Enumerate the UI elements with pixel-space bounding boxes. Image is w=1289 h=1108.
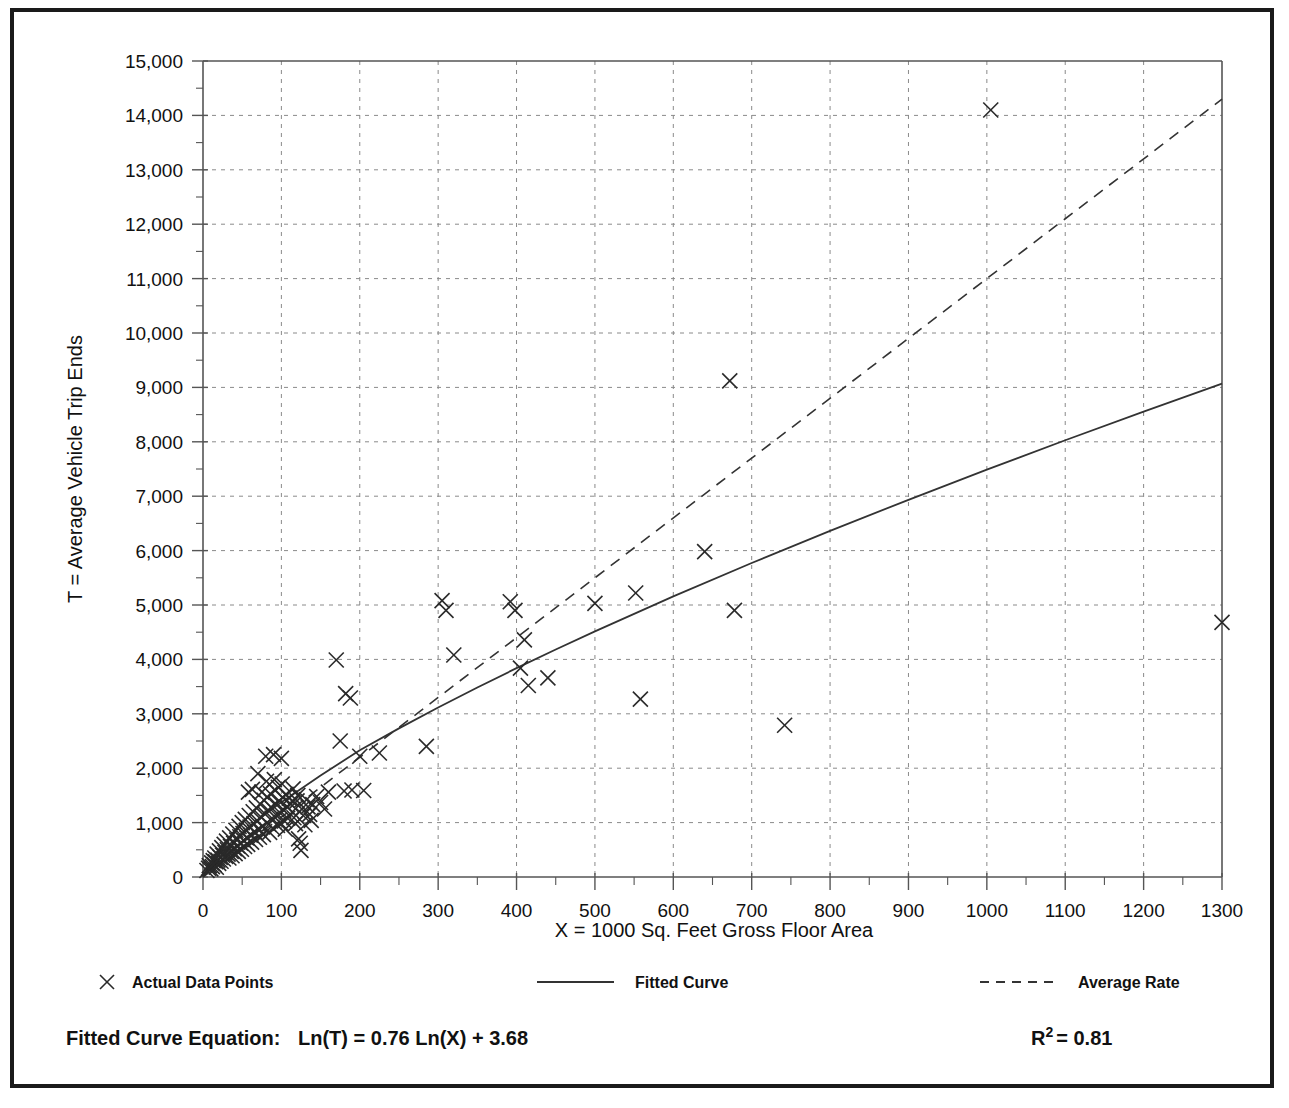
x-tick-label: 800 [814, 900, 846, 921]
y-tick-label: 8,000 [135, 432, 183, 453]
y-tick-label: 9,000 [135, 377, 183, 398]
x-tick-label: 0 [198, 900, 209, 921]
x-tick-label: 400 [501, 900, 533, 921]
y-tick-label: 13,000 [125, 160, 183, 181]
y-axis-tick-labels: 01,0002,0003,0004,0005,0006,0007,0008,00… [125, 51, 183, 888]
plot-background [203, 61, 1222, 877]
y-tick-label: 15,000 [125, 51, 183, 72]
y-axis-label: T = Average Vehicle Trip Ends [64, 335, 86, 603]
x-tick-label: 600 [657, 900, 689, 921]
x-tick-label: 900 [893, 900, 925, 921]
chart-page: 01,0002,0003,0004,0005,0006,0007,0008,00… [0, 0, 1289, 1108]
y-tick-label: 12,000 [125, 214, 183, 235]
x-tick-label: 100 [266, 900, 298, 921]
x-tick-label: 500 [579, 900, 611, 921]
x-axis-label: X = 1000 Sq. Feet Gross Floor Area [555, 919, 874, 941]
y-tick-label: 14,000 [125, 105, 183, 126]
fitted-curve-equation-label: Fitted Curve Equation: Ln(T) = 0.76 Ln(X… [66, 1027, 528, 1049]
x-tick-label: 1200 [1122, 900, 1164, 921]
x-tick-label: 300 [422, 900, 454, 921]
y-tick-label: 10,000 [125, 323, 183, 344]
legend-label-fitted-curve: Fitted Curve [635, 974, 728, 991]
y-tick-label: 2,000 [135, 758, 183, 779]
legend-marker-actual-data-points [100, 975, 114, 989]
y-tick-label: 3,000 [135, 704, 183, 725]
y-tick-label: 6,000 [135, 541, 183, 562]
x-axis-tick-labels: 0100200300400500600700800900100011001200… [198, 900, 1243, 921]
legend-label-average-rate: Average Rate [1078, 974, 1180, 991]
r-squared-value: R2= 0.81 [1031, 1024, 1112, 1049]
chart-legend: Actual Data Points Fitted Curve Average … [100, 974, 1180, 991]
figure-frame: 01,0002,0003,0004,0005,0006,0007,0008,00… [10, 8, 1274, 1088]
x-tick-label: 1100 [1045, 900, 1086, 921]
x-tick-label: 1300 [1201, 900, 1243, 921]
y-tick-label: 7,000 [135, 486, 183, 507]
x-tick-label: 1000 [966, 900, 1008, 921]
y-tick-label: 0 [172, 867, 183, 888]
x-tick-label: 700 [736, 900, 768, 921]
x-tick-label: 200 [344, 900, 376, 921]
y-tick-label: 11,000 [126, 269, 183, 290]
y-tick-label: 4,000 [135, 649, 183, 670]
y-tick-label: 1,000 [135, 813, 183, 834]
legend-label-actual-data-points: Actual Data Points [132, 974, 273, 991]
scatter-plot-figure: 01,0002,0003,0004,0005,0006,0007,0008,00… [14, 12, 1270, 1084]
y-tick-label: 5,000 [135, 595, 183, 616]
